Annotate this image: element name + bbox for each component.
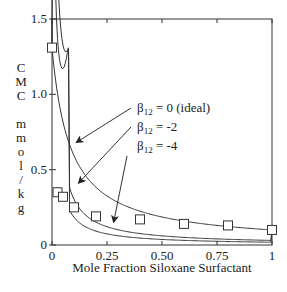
beta-subscript: 12 bbox=[144, 126, 153, 136]
legend-label: β12 = -2 bbox=[137, 119, 177, 136]
beta-value: = -2 bbox=[153, 119, 178, 134]
annotation-arrow bbox=[114, 156, 127, 222]
data-point bbox=[136, 215, 145, 224]
y-axis-title-char: l bbox=[19, 158, 23, 173]
y-axis-title-char: g bbox=[18, 200, 25, 215]
data-point bbox=[180, 219, 189, 228]
data-point bbox=[224, 221, 233, 230]
y-axis-title-char: m bbox=[16, 116, 26, 131]
x-tick-label: 0 bbox=[49, 248, 56, 263]
y-axis-title-char: k bbox=[18, 186, 25, 201]
y-tick-label: 1.5 bbox=[31, 11, 47, 26]
x-axis-title: Mole Fraction Siloxane Surfactant bbox=[72, 260, 252, 275]
y-axis-title-char: o bbox=[18, 144, 25, 159]
data-point bbox=[70, 203, 79, 212]
legend-label: β12 = -4 bbox=[137, 138, 178, 155]
beta-value: = 0 (ideal) bbox=[153, 100, 211, 115]
chart: 00.250.500.75100.51.01.5 β12 = 0 (ideal)… bbox=[0, 0, 287, 292]
y-tick-label: 1.0 bbox=[31, 86, 47, 101]
data-point bbox=[48, 43, 57, 52]
data-point bbox=[92, 212, 101, 221]
y-axis-title: CMCmmol/kg bbox=[15, 60, 27, 215]
y-axis-title-char: M bbox=[15, 74, 27, 89]
axis-labels: Mole Fraction Siloxane Surfactant bbox=[72, 260, 252, 275]
beta-subscript: 12 bbox=[144, 145, 153, 155]
y-axis-title-char: C bbox=[17, 88, 26, 103]
y-axis-title-char: m bbox=[16, 130, 26, 145]
data-point bbox=[268, 225, 277, 234]
beta-value: = -4 bbox=[153, 138, 178, 153]
data-point bbox=[59, 192, 68, 201]
y-axis-title-char: / bbox=[19, 172, 23, 187]
beta-subscript: 12 bbox=[144, 107, 153, 117]
x-tick-label: 1 bbox=[269, 248, 276, 263]
annotations: β12 = 0 (ideal)β12 = -2β12 = -4 bbox=[76, 100, 210, 222]
y-tick-label: 0.5 bbox=[31, 162, 47, 177]
annotation-arrow bbox=[76, 108, 131, 143]
y-tick-label: 0 bbox=[41, 237, 48, 252]
legend-label: β12 = 0 (ideal) bbox=[137, 100, 210, 117]
y-axis-title-char: C bbox=[17, 60, 26, 75]
